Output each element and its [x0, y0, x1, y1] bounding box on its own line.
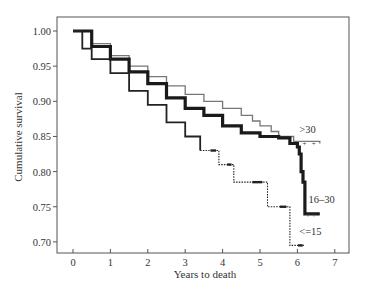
- censor-mark: +: [312, 140, 316, 148]
- y-tick-label: 0.80: [33, 167, 51, 178]
- y-tick-label: 0.75: [33, 202, 51, 213]
- x-tick-label: 6: [295, 257, 300, 268]
- y-tick-label: 0.85: [33, 131, 51, 142]
- x-tick-label: 3: [183, 257, 188, 268]
- series-le15-dotted: [200, 151, 305, 246]
- x-axis-label: Years to death: [174, 268, 237, 280]
- series-label: 16–30: [309, 194, 335, 205]
- x-tick-label: 2: [145, 257, 150, 268]
- censor-mark: +: [311, 209, 316, 219]
- x-tick-label: 4: [220, 257, 226, 268]
- survival-chart: 1.000.950.900.850.800.750.70 01234567 ++…: [0, 0, 366, 294]
- series-label: <=15: [299, 226, 321, 237]
- y-tick-label: 0.95: [33, 61, 51, 72]
- censor-mark: +: [302, 140, 306, 148]
- y-axis: 1.000.950.900.850.800.750.70: [33, 26, 57, 248]
- series-label: >30: [299, 124, 315, 135]
- y-tick-label: 1.00: [33, 26, 51, 37]
- x-tick-label: 0: [70, 257, 75, 268]
- x-tick-label: 5: [257, 257, 262, 268]
- censor-mark: +: [306, 209, 311, 219]
- series-le15-line: [73, 31, 200, 151]
- y-tick-label: 0.90: [33, 96, 51, 107]
- x-tick-label: 7: [332, 257, 337, 268]
- series-layer: ++++: [73, 31, 320, 245]
- y-tick-label: 0.70: [33, 237, 51, 248]
- y-axis-label: Cumulative survival: [12, 92, 24, 182]
- x-tick-label: 1: [108, 257, 113, 268]
- x-axis: 01234567: [70, 249, 337, 268]
